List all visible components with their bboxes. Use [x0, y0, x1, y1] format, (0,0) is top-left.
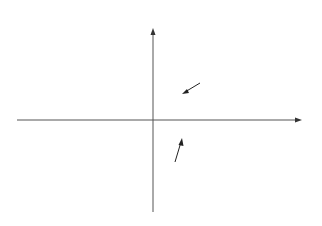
sin-cos-plot — [0, 0, 322, 226]
y-axis-arrow-icon — [151, 28, 156, 35]
x-axis-arrow-icon — [295, 118, 302, 123]
cos-arrowhead-icon — [179, 138, 184, 146]
